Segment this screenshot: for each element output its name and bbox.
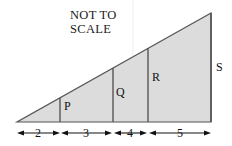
dimension-label-5: 5 [174,127,186,139]
region-label-p: P [64,100,71,112]
region-label-s: S [216,61,223,73]
dimension-label-3: 3 [80,127,92,139]
dimension-label-2: 2 [32,127,44,139]
region-label-r: R [152,71,160,83]
region-label-q: Q [116,86,125,98]
dimension-label-4: 4 [124,127,136,139]
not-to-scale-note: NOT TO SCALE [70,8,156,36]
